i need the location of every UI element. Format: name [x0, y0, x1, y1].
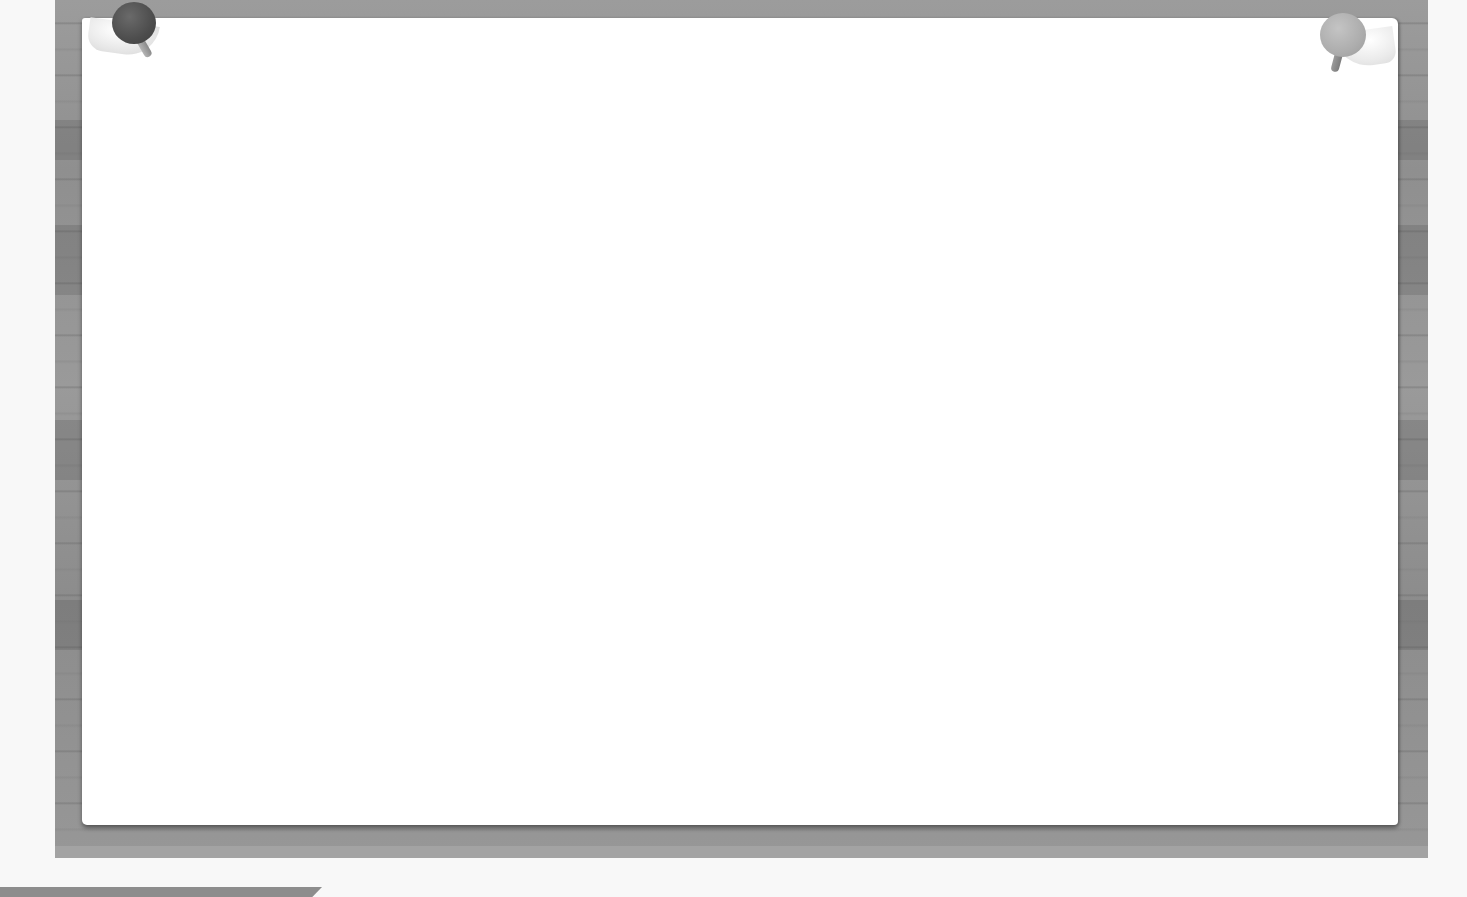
paper-content [82, 18, 1398, 825]
pushpin-icon [1320, 13, 1366, 57]
board-bottom-edge [55, 846, 1428, 858]
game-stage [0, 0, 1467, 897]
pushpin-icon [112, 2, 156, 44]
bottom-bar [0, 887, 322, 897]
